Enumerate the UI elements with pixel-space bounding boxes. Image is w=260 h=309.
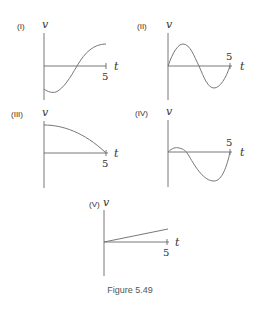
curve <box>44 125 106 153</box>
curve <box>168 148 230 181</box>
v-axis-label: v <box>42 18 49 31</box>
curve <box>44 44 106 92</box>
graph-label: (V) <box>89 200 100 209</box>
v-axis-label: v <box>166 105 173 118</box>
tick-label: 5 <box>102 71 108 82</box>
graph-v: (V) v t 5 <box>89 196 180 276</box>
t-axis-label: t <box>114 147 119 160</box>
tick-label: 5 <box>226 137 232 148</box>
graph-label: (IV) <box>135 109 148 118</box>
t-axis-label: t <box>114 60 119 73</box>
t-axis-label: t <box>240 60 245 73</box>
tick-label: 5 <box>163 247 169 258</box>
figure-caption: Figure 5.49 <box>107 285 153 295</box>
graph-i: (I) v t 5 <box>17 18 119 100</box>
v-axis-label: v <box>103 196 110 209</box>
tick-label: 5 <box>102 158 108 169</box>
graph-ii: (II) v t 5 <box>137 18 245 100</box>
graph-iii: (III) v t 5 <box>11 106 119 188</box>
v-axis-label: v <box>166 18 173 31</box>
v-axis-label: v <box>42 106 49 119</box>
curve <box>104 229 168 242</box>
graph-label: (III) <box>11 110 23 119</box>
graph-label: (I) <box>17 22 25 31</box>
graph-label: (II) <box>137 22 147 31</box>
tick-label: 5 <box>226 51 232 62</box>
t-axis-label: t <box>175 236 180 249</box>
graph-iv: (IV) v t 5 <box>135 105 245 187</box>
figure-5-49: (I) v t 5 (II) v t 5 (III) v t 5 (IV) v <box>0 0 260 309</box>
t-axis-label: t <box>240 146 245 159</box>
